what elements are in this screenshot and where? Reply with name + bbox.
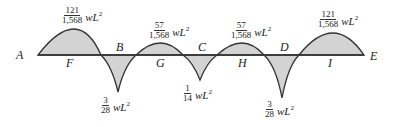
- moment-C: 114 wL2: [183, 84, 212, 103]
- moment-D: 328 wL2: [265, 100, 294, 119]
- positive-lobe-F: [38, 29, 101, 55]
- negative-lobe-C: [183, 55, 217, 80]
- moment-H: 571,568 wL2: [231, 21, 271, 40]
- negative-lobe-B: [101, 55, 136, 92]
- label-B: B: [116, 41, 123, 53]
- moment-I: 1211,568 wL2: [318, 10, 358, 29]
- positive-lobe-H: [217, 43, 264, 55]
- label-E: E: [370, 50, 377, 62]
- label-A: A: [16, 49, 23, 61]
- label-F: F: [66, 57, 73, 69]
- moment-F: 1211,568 wL2: [62, 6, 102, 25]
- label-D: D: [280, 41, 289, 53]
- moment-B: 328 wL2: [101, 96, 130, 115]
- label-G: G: [156, 57, 165, 69]
- label-I: I: [328, 57, 332, 69]
- positive-lobe-G: [136, 43, 183, 55]
- label-H: H: [238, 57, 247, 69]
- positive-lobe-I: [299, 33, 364, 55]
- moment-G: 571,568 wL2: [149, 21, 189, 40]
- label-C: C: [198, 41, 206, 53]
- negative-lobe-D: [264, 55, 299, 98]
